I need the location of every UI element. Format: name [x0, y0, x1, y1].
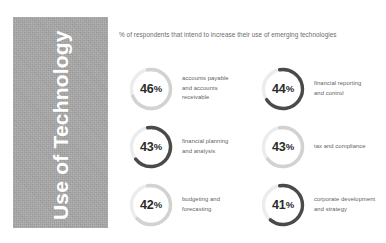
panel-title: Use of Technology: [13, 17, 108, 228]
donut-value-text: 41%: [260, 182, 306, 228]
stat-label: corporate developmentand strategy: [314, 195, 375, 214]
stat-label-line: forecasting: [182, 205, 220, 215]
donut-chart: 43%: [128, 124, 174, 170]
donut-chart: 43%: [260, 124, 306, 170]
stat-item: 46%accounts payableand accountsreceivabl…: [128, 60, 248, 117]
stat-label-line: and control: [314, 89, 361, 99]
stats-grid: 46%accounts payableand accountsreceivabl…: [128, 60, 380, 233]
donut-chart: 41%: [260, 182, 306, 228]
donut-value-text: 44%: [260, 66, 306, 112]
stat-label: tax and compliance: [314, 142, 366, 152]
donut-chart: 42%: [128, 182, 174, 228]
percent-sign: %: [286, 83, 294, 94]
stat-label-line: budgeting and: [182, 195, 220, 205]
stat-label-line: and strategy: [314, 205, 375, 215]
stat-item: 42%budgeting andforecasting: [128, 176, 248, 233]
stat-label-line: receivable: [182, 93, 229, 103]
percent-sign: %: [154, 83, 162, 94]
donut-value-number: 46: [140, 82, 154, 96]
stat-label-line: corporate development: [314, 195, 375, 205]
percent-sign: %: [286, 141, 294, 152]
chart-header-caption: % of respondents that intend to increase…: [119, 31, 381, 38]
percent-sign: %: [154, 141, 162, 152]
use-of-technology-panel: Use of Technology: [13, 17, 108, 228]
stat-label: financial reportingand control: [314, 79, 361, 98]
donut-value-number: 42: [140, 198, 154, 212]
donut-value-text: 43%: [260, 124, 306, 170]
donut-chart: 44%: [260, 66, 306, 112]
donut-value-number: 41: [272, 198, 286, 212]
stat-label-line: and analysis: [182, 147, 228, 157]
donut-value-text: 42%: [128, 182, 174, 228]
donut-chart: 46%: [128, 66, 174, 112]
donut-value-text: 46%: [128, 66, 174, 112]
donut-value-number: 43: [140, 140, 154, 154]
percent-sign: %: [286, 199, 294, 210]
stat-label: budgeting andforecasting: [182, 195, 220, 214]
percent-sign: %: [154, 199, 162, 210]
stat-label-line: tax and compliance: [314, 142, 366, 152]
stat-item: 43%financial planningand analysis: [128, 118, 248, 175]
stat-label: accounts payableand accountsreceivable: [182, 74, 229, 103]
stat-label-line: and accounts: [182, 84, 229, 94]
stat-item: 43%tax and compliance: [260, 118, 380, 175]
donut-value-number: 43: [272, 140, 286, 154]
stat-item: 44%financial reportingand control: [260, 60, 380, 117]
stat-label-line: financial reporting: [314, 79, 361, 89]
donut-value-number: 44: [272, 82, 286, 96]
stat-label: financial planningand analysis: [182, 137, 228, 156]
stat-label-line: financial planning: [182, 137, 228, 147]
donut-value-text: 43%: [128, 124, 174, 170]
stat-item: 41%corporate developmentand strategy: [260, 176, 380, 233]
stat-label-line: accounts payable: [182, 74, 229, 84]
